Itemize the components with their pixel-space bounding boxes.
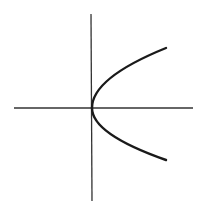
diagram-svg: [0, 0, 216, 212]
parabola-diagram: [0, 0, 216, 212]
parabola-upper-branch: [92, 48, 166, 108]
parabola-lower-branch: [92, 108, 166, 160]
